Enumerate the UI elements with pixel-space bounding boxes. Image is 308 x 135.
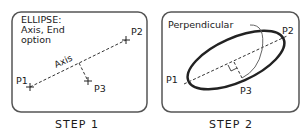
perpendicular-label: Perpendicular xyxy=(168,19,233,30)
major-axis-line xyxy=(184,36,287,84)
cross-marker-p2 xyxy=(122,36,130,44)
step-2-panel: Perpendicular P1 P2 P3 STEP 2 xyxy=(154,0,308,135)
perpendicular-line xyxy=(234,62,242,78)
perpendicular-line xyxy=(79,63,88,81)
step-1-diagram: ELLIPSE: Axis, End option Axis P1 P2 P3 xyxy=(0,0,154,135)
p1-label: P1 xyxy=(166,74,178,85)
step-1-caption: STEP 1 xyxy=(0,118,154,131)
p2-label: P2 xyxy=(131,26,143,37)
cross-marker-p3 xyxy=(84,77,92,85)
right-angle-mark xyxy=(228,65,237,71)
step-2-diagram: Perpendicular P1 P2 P3 xyxy=(154,0,308,135)
step-2-caption: STEP 2 xyxy=(154,118,308,131)
p2-label: P2 xyxy=(282,25,294,36)
p1-label: P1 xyxy=(16,75,28,86)
axis-line xyxy=(30,40,126,87)
p3-label: P3 xyxy=(240,85,252,96)
prompt-line-3: option xyxy=(21,34,51,45)
p3-label: P3 xyxy=(94,83,106,94)
step-1-panel: ELLIPSE: Axis, End option Axis P1 P2 P3 … xyxy=(0,0,154,135)
